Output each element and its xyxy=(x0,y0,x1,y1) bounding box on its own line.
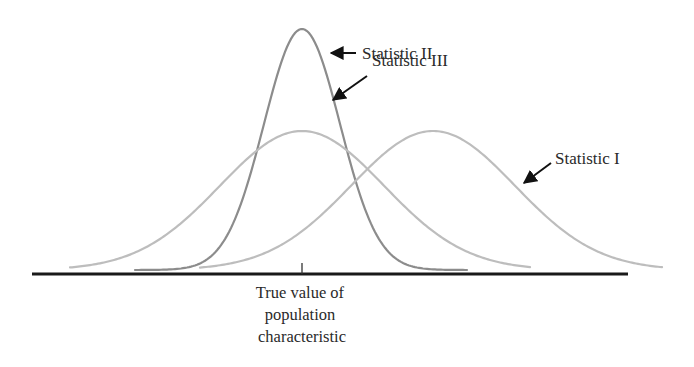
sampling-distribution-figure: Statistic IIStatistic IIIStatistic I Tru… xyxy=(0,0,694,367)
diagram-canvas: Statistic IIStatistic IIIStatistic I Tru… xyxy=(0,0,694,367)
statistic-iii-label: Statistic III xyxy=(372,51,448,70)
statistic-iii-arrow-icon xyxy=(333,76,367,100)
statistic-i-label: Statistic I xyxy=(555,149,620,168)
axis-label-line-3: characteristic xyxy=(258,327,346,346)
true-value-label: True value of population characteristic xyxy=(256,283,348,346)
statistic-iii-curve xyxy=(70,131,530,267)
statistic-i-arrow-icon xyxy=(524,163,551,183)
axis-label-line-1: True value of xyxy=(256,283,345,302)
axis-label-line-2: population xyxy=(265,305,336,324)
